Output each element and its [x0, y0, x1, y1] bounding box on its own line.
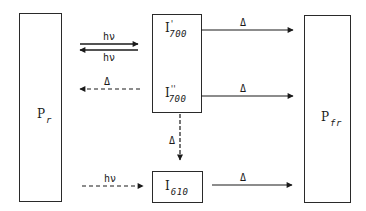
edge-label-i700pp-to-pr: Δ	[104, 77, 110, 87]
edge-label-i700p-to-pfr: Δ	[240, 18, 246, 28]
edge-label-i700pp-to-pfr: Δ	[240, 84, 246, 94]
edge-label-pr-to-i700p: hν	[103, 32, 115, 42]
edge-label-pr-to-i610: hν	[104, 174, 116, 184]
edge-label-i610-to-pfr: Δ	[240, 173, 246, 183]
arrows-layer	[0, 0, 366, 211]
edge-label-i700p-to-pr: hν	[103, 53, 115, 63]
edge-label-i700pp-to-i610: Δ	[169, 136, 175, 146]
